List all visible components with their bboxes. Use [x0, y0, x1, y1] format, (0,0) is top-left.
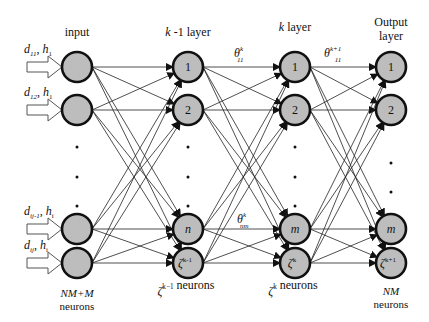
neuron-k-2: 2	[280, 95, 310, 125]
ellipsis-dot	[390, 162, 393, 165]
neuron-k-3: m	[280, 214, 310, 244]
footer-input-neurons: neurons	[60, 300, 95, 312]
ellipsis-dot	[76, 205, 79, 208]
connection-edge	[92, 67, 180, 216]
neuron-label: 2	[292, 103, 298, 117]
layer-title-output-line2: layer	[379, 29, 403, 43]
connection-edge	[310, 229, 377, 257]
neural-network-diagram: 12nζk-112mζk12mζk+1 inputk -1 layerk lay…	[0, 0, 429, 322]
neuron-k-1: 1	[280, 52, 310, 82]
neuron-label: m	[291, 222, 300, 236]
neuron-label: 1	[292, 60, 298, 74]
weight-label: θknm	[237, 211, 249, 230]
connection-edge	[203, 81, 289, 263]
connection-edge	[92, 80, 181, 263]
neuron-label: 2	[185, 103, 191, 117]
neuron-k-1-2: 2	[173, 95, 203, 125]
connection-edge	[92, 67, 174, 104]
ellipsis-dot	[187, 205, 190, 208]
neuron-circle	[62, 52, 92, 82]
footer-k: ζk neurons	[268, 278, 318, 298]
neuron-input-4	[62, 248, 92, 278]
connection-edge	[203, 110, 286, 217]
layer-title-input: input	[65, 25, 90, 39]
input-label: dij, hi	[24, 238, 48, 254]
ellipsis-dot	[294, 205, 297, 208]
ellipsis-dot	[294, 176, 297, 179]
connection-edge	[310, 67, 378, 103]
ellipsis-dot	[390, 191, 393, 194]
neuron-input-3	[62, 214, 92, 244]
layer-title-output-line1: Output	[374, 15, 408, 29]
connection-edge	[310, 81, 385, 263]
neuron-output-4: ζk+1	[376, 248, 406, 278]
neuron-k-1-4: ζk-1	[173, 248, 203, 278]
input-label: d11, h1	[24, 42, 52, 58]
input-arrow-icon	[27, 99, 62, 121]
neuron-label: m	[387, 222, 396, 236]
input-arrow-icon	[27, 252, 62, 274]
neuron-circle	[62, 214, 92, 244]
neuron-output-2: 2	[376, 95, 406, 125]
connection-edge	[203, 67, 288, 216]
connection-edge	[310, 110, 383, 217]
weight-label: θk11	[234, 45, 244, 64]
neuron-k-1-1: 1	[173, 52, 203, 82]
neuron-circle	[62, 95, 92, 125]
neuron-label: 1	[185, 60, 191, 74]
neuron-label: n	[185, 222, 191, 236]
weight-label: θk+111	[324, 45, 341, 64]
neuron-k-4: ζk	[280, 248, 310, 278]
input-label: d12, h1	[24, 85, 53, 101]
connection-edge	[203, 80, 288, 229]
input-arrow-icon	[27, 218, 62, 240]
input-arrow-icon	[27, 56, 62, 78]
layer-title-k-minus-1: k -1 layer	[165, 25, 210, 39]
connection-edge	[203, 67, 281, 104]
ellipsis-dot	[187, 146, 190, 149]
connection-edge	[92, 67, 181, 250]
neuron-input-1	[62, 52, 92, 82]
input-label: dij-1, hi	[24, 204, 54, 220]
footer-input-count: NM+M	[59, 287, 94, 299]
neuron-circle	[62, 248, 92, 278]
connections	[92, 67, 385, 263]
connection-edge	[92, 80, 180, 229]
neuron-output-3: m	[376, 214, 406, 244]
connection-edge	[310, 80, 384, 229]
ellipsis-dot	[76, 146, 79, 149]
neuron-k-1-3: n	[173, 214, 203, 244]
connection-edge	[310, 67, 385, 249]
connection-edge	[92, 110, 179, 217]
neuron-input-2	[62, 95, 92, 125]
footer-output-neurons: neurons	[374, 298, 409, 310]
neuron-output-1: 1	[376, 52, 406, 82]
ellipsis-dot	[76, 176, 79, 179]
neuron-label: 2	[388, 103, 394, 117]
ellipsis-dot	[294, 146, 297, 149]
footer-k-minus-1: ζk−1 neurons	[157, 278, 214, 298]
neuron-label: 1	[388, 60, 394, 74]
ellipsis-dot	[187, 176, 190, 179]
layer-title-k: k layer	[279, 20, 311, 34]
footer-output-count: NM	[382, 285, 400, 297]
